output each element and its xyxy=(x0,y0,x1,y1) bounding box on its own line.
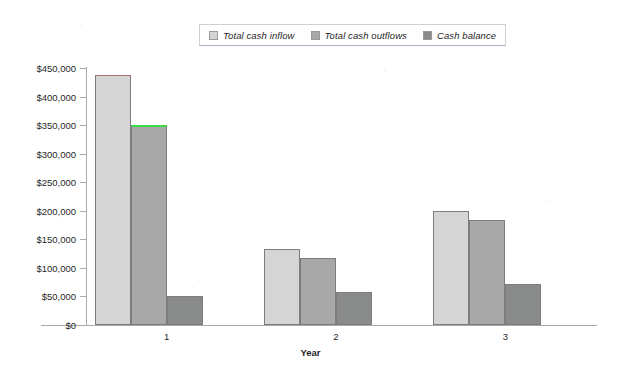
bar-outflow-year-2 xyxy=(300,258,336,325)
y-axis-tick-label: $150,000 xyxy=(36,234,76,245)
y-axis-tick-label: $0 xyxy=(65,320,76,331)
y-axis-tick-label: $50,000 xyxy=(42,291,76,302)
bar-inflow-year-3 xyxy=(433,211,469,325)
x-axis-label-year-2: 2 xyxy=(333,331,338,342)
y-axis-tick-label: $350,000 xyxy=(36,120,76,131)
x-axis-line xyxy=(41,325,597,326)
legend-item-inflow: Total cash inflow xyxy=(209,30,295,41)
y-axis-tick-label: $450,000 xyxy=(36,63,76,74)
legend-swatch-balance xyxy=(423,31,432,40)
legend-item-outflow: Total cash outflows xyxy=(311,30,407,41)
y-axis-tick-label: $400,000 xyxy=(36,91,76,102)
plot-area xyxy=(86,68,594,325)
legend-label-balance: Cash balance xyxy=(437,30,496,41)
x-axis-label-year-3: 3 xyxy=(503,331,508,342)
legend-swatch-inflow xyxy=(209,31,218,40)
bar-balance-year-1 xyxy=(167,296,203,325)
y-axis-tick-label: $200,000 xyxy=(36,205,76,216)
y-axis-tick-label: $300,000 xyxy=(36,148,76,159)
x-axis-title: Year xyxy=(0,347,621,358)
y-axis-tick-label: $100,000 xyxy=(36,262,76,273)
bar-outflow-year-1 xyxy=(131,125,167,325)
bar-balance-year-3 xyxy=(505,284,541,325)
x-axis-label-year-1: 1 xyxy=(164,331,169,342)
legend-label-inflow: Total cash inflow xyxy=(223,30,295,41)
y-axis-tick-label: $250,000 xyxy=(36,177,76,188)
y-axis-tick xyxy=(80,325,86,326)
bar-inflow-year-2 xyxy=(264,249,300,325)
bar-balance-year-2 xyxy=(336,292,372,325)
legend-swatch-outflow xyxy=(311,31,320,40)
chart-legend: Total cash inflow Total cash outflows Ca… xyxy=(199,24,506,46)
bar-inflow-year-1 xyxy=(95,75,131,325)
legend-item-balance: Cash balance xyxy=(423,30,496,41)
bar-outflow-year-3 xyxy=(469,220,505,325)
legend-label-outflow: Total cash outflows xyxy=(325,30,407,41)
